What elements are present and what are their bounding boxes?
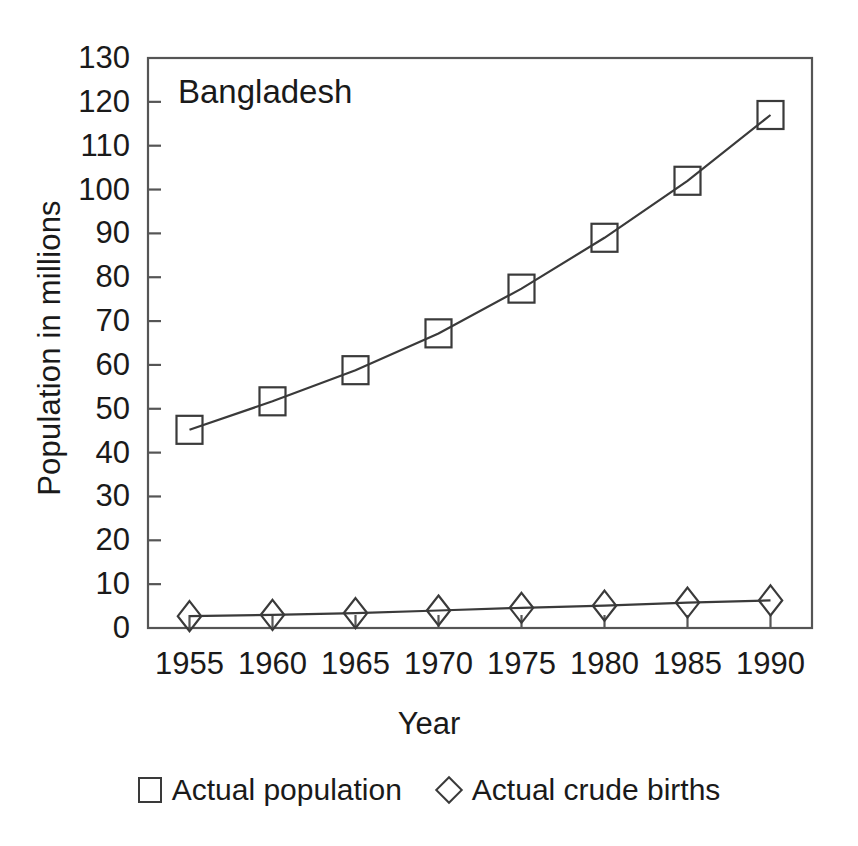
- data-point-square: [343, 356, 369, 384]
- legend-item-actual-crude-births: Actual crude births: [436, 773, 720, 807]
- data-point-square: [675, 167, 701, 195]
- data-point-square: [426, 319, 452, 347]
- chart-legend: Actual population Actual crude births: [0, 773, 858, 807]
- data-point-square: [177, 416, 203, 444]
- legend-label-actual-population: Actual population: [172, 773, 402, 807]
- diamond-marker-icon: [435, 776, 463, 804]
- plot-area: [0, 0, 858, 846]
- plot-frame: [148, 58, 812, 628]
- square-marker-icon: [138, 777, 162, 803]
- series-line-actual-population: [190, 115, 771, 430]
- data-point-square: [592, 224, 618, 252]
- legend-label-actual-crude-births: Actual crude births: [472, 773, 720, 807]
- data-point-square: [758, 101, 784, 129]
- legend-item-actual-population: Actual population: [138, 773, 402, 807]
- chart-figure: Population in millions 01020304050607080…: [0, 0, 858, 846]
- data-point-square: [260, 387, 286, 415]
- data-point-square: [509, 275, 535, 303]
